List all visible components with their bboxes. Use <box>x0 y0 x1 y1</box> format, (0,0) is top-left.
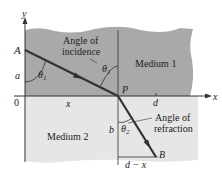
refraction-caption-line2: refraction <box>154 123 193 134</box>
x-axis-label: x <box>212 91 218 102</box>
incidence-caption-line1: Angle of <box>63 35 99 46</box>
distance-a-label: a <box>15 70 20 81</box>
distance-b-label: b <box>109 124 114 135</box>
refraction-caption-line1: Angle of <box>155 112 191 123</box>
point-A-label: A <box>13 44 21 56</box>
distance-x-label: x <box>65 98 71 109</box>
medium-1-label: Medium 1 <box>135 58 176 69</box>
refraction-diagram: y x 0 A P B a b x d d − x θ1 θ1 θ2 Angle… <box>0 0 222 178</box>
origin-label: 0 <box>14 97 19 108</box>
x-axis-arrow-icon <box>205 94 212 99</box>
incidence-caption-line2: incidence <box>62 46 101 57</box>
y-axis-label: y <box>21 8 27 19</box>
point-P-label: P <box>121 84 128 95</box>
point-B-label: B <box>159 149 165 160</box>
medium-2-label: Medium 2 <box>47 131 88 142</box>
distance-d-minus-x-label: d − x <box>125 159 147 170</box>
